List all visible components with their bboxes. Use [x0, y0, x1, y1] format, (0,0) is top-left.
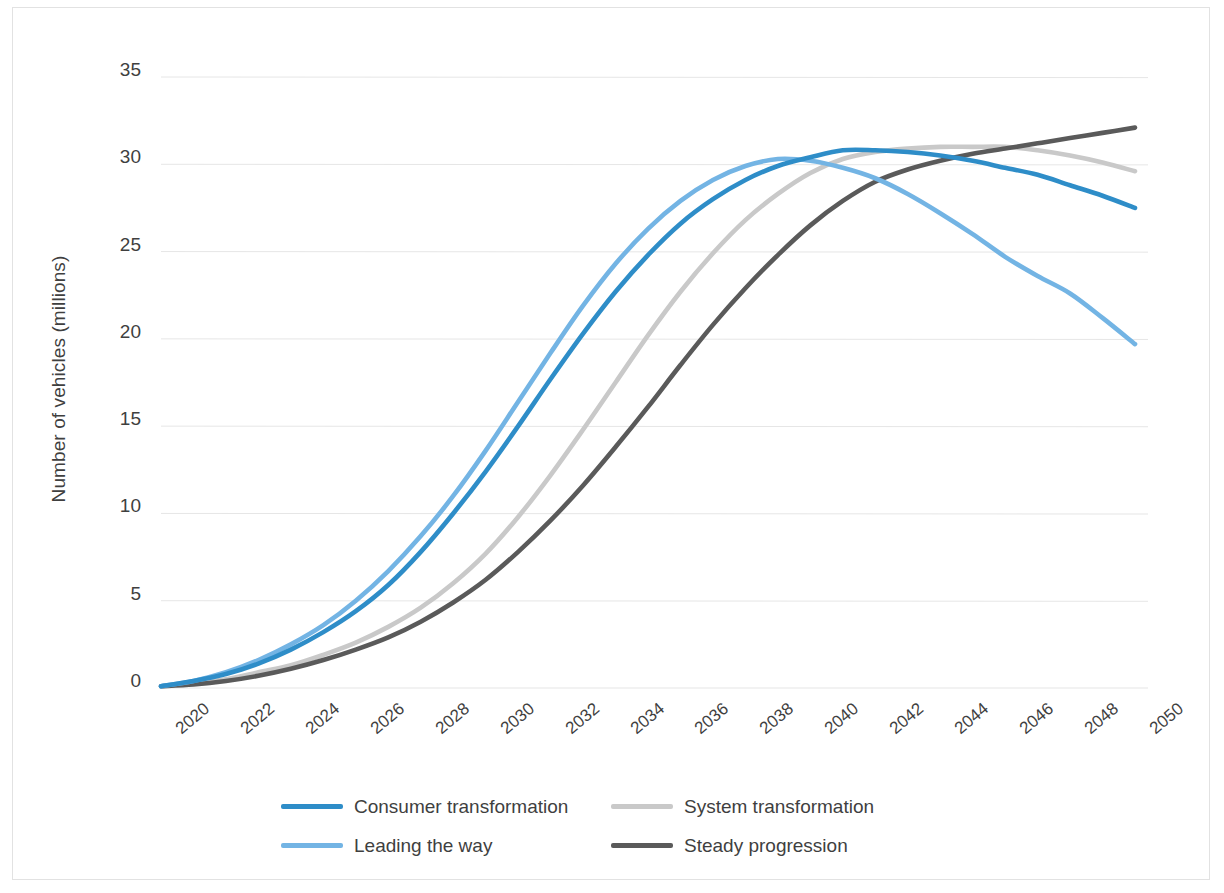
line-chart-plot	[13, 8, 1224, 893]
legend-item-system-transformation[interactable]: System transformation	[611, 796, 901, 818]
gridline	[161, 601, 1148, 602]
gridline	[161, 426, 1148, 427]
gridline	[161, 77, 1148, 78]
legend-swatch-icon	[281, 804, 343, 809]
legend-item-leading-the-way[interactable]: Leading the way	[281, 835, 611, 857]
series-line-steady-progression	[161, 128, 1135, 687]
legend-row: Consumer transformationSystem transforma…	[281, 787, 901, 826]
legend-swatch-icon	[281, 843, 343, 848]
chart-legend: Consumer transformationSystem transforma…	[281, 787, 901, 865]
legend-swatch-icon	[611, 843, 673, 848]
legend-row: Leading the waySteady progression	[281, 826, 901, 865]
legend-item-consumer-transformation[interactable]: Consumer transformation	[281, 796, 611, 818]
legend-item-steady-progression[interactable]: Steady progression	[611, 835, 901, 857]
gridline	[161, 339, 1148, 340]
chart-frame: Number of vehicles (millions) 0510152025…	[12, 7, 1210, 880]
legend-label: System transformation	[684, 796, 874, 818]
legend-label: Leading the way	[354, 835, 492, 857]
legend-label: Steady progression	[684, 835, 848, 857]
gridline	[161, 513, 1148, 514]
legend-label: Consumer transformation	[354, 796, 568, 818]
series-lines	[161, 128, 1135, 687]
legend-swatch-icon	[611, 804, 673, 809]
series-line-leading-the-way	[161, 159, 1135, 686]
